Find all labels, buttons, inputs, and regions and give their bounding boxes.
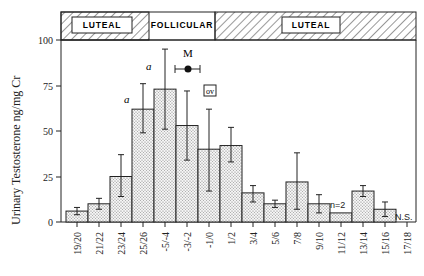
y-tick-50: 50 [43,126,53,137]
x-tick-label: -1/0 [204,232,215,248]
y-tick-75: 75 [43,81,53,92]
x-tick-label: 17/18 [402,232,413,255]
testosterone-chart: LUTEAL FOLLICULAR LUTEAL 100 75 50 25 0 … [0,0,424,276]
y-axis-label: Urinary Testosterone ng/mg Cr [9,76,23,225]
x-tick-label: 21/22 [94,232,105,255]
x-tick-label: 7/8 [292,232,303,245]
menses-label: M [183,47,193,59]
x-tick-label: 19/20 [72,232,83,255]
y-axis: 100 75 50 25 0 Urinary Testosterone ng/m… [9,35,61,228]
y-tick-0: 0 [48,217,53,228]
ns-label: N.S. [395,212,413,222]
x-axis: 19/2021/2223/2425/26-5/-4-3/-2-1/01/23/4… [72,222,413,255]
bar-11/12 [330,213,352,222]
x-tick-label: 5/6 [270,232,281,245]
x-tick-label: -5/-4 [160,232,171,251]
n-label: n=2 [330,200,345,210]
x-tick-label: 11/12 [336,232,347,254]
sig-marker-a2: a [146,60,152,72]
bars [66,49,396,222]
x-tick-label: 23/24 [116,232,127,255]
menses-marker [185,66,192,73]
ovulation-label: ov [206,87,214,96]
phase-luteal-2: LUTEAL [292,20,330,30]
x-tick-label: 13/14 [358,232,369,255]
x-tick-label: 1/2 [226,232,237,245]
y-tick-100: 100 [38,35,53,46]
x-tick-label: 25/26 [138,232,149,255]
x-tick-label: 9/10 [314,232,325,250]
x-tick-label: 3/4 [248,232,259,245]
phase-follicular: FOLLICULAR [151,20,213,30]
x-tick-label: 15/16 [380,232,391,255]
y-tick-25: 25 [43,172,53,183]
sig-marker-a1: a [124,93,130,105]
phase-luteal-1: LUTEAL [83,20,121,30]
phase-band: LUTEAL FOLLICULAR LUTEAL [61,12,416,40]
x-tick-label: -3/-2 [182,232,193,251]
